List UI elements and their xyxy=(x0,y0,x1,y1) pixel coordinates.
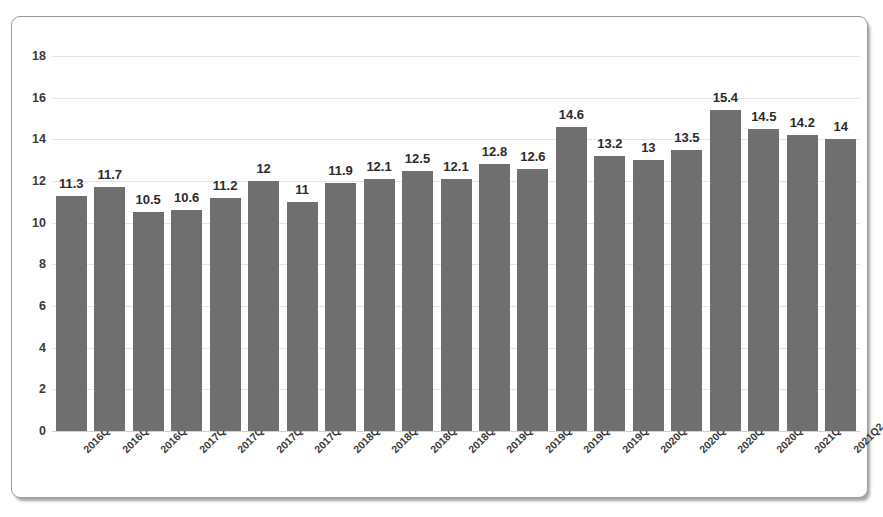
bar[interactable] xyxy=(748,129,779,431)
bar-value-label: 14.6 xyxy=(559,107,584,122)
bar[interactable] xyxy=(325,183,356,431)
bar-value-label: 12.1 xyxy=(443,159,468,174)
x-axis-tick-label: 2017Q4 xyxy=(312,447,320,455)
bar[interactable] xyxy=(171,210,202,431)
bar-value-label: 13.2 xyxy=(597,136,622,151)
bar-value-label: 12.5 xyxy=(405,151,430,166)
bar[interactable] xyxy=(517,169,548,432)
x-axis-tick-label: 2019Q1 xyxy=(504,447,512,455)
bar-value-label: 15.4 xyxy=(713,90,738,105)
bar-value-label: 11.2 xyxy=(213,178,238,193)
x-axis-tick-label: 2021Q2 xyxy=(851,447,859,455)
bar[interactable] xyxy=(556,127,587,431)
bar[interactable] xyxy=(94,187,125,431)
x-axis-tick-label: 2018Q2 xyxy=(389,447,397,455)
bar-value-label: 12 xyxy=(256,161,270,176)
bar[interactable] xyxy=(479,164,510,431)
bar[interactable] xyxy=(787,135,818,431)
plot-area: 02468101214161811.32016Q211.72016Q310.52… xyxy=(12,17,869,499)
bar-value-label: 12.1 xyxy=(366,159,391,174)
bar-value-label: 13.5 xyxy=(674,130,699,145)
bar-value-label: 12.8 xyxy=(482,144,507,159)
x-axis-tick-label: 2020Q4 xyxy=(774,447,782,455)
bar-value-label: 10.6 xyxy=(174,190,199,205)
x-axis-tick-label: 2016Q3 xyxy=(119,447,127,455)
x-axis-tick-label: 2019Q3 xyxy=(581,447,589,455)
bar[interactable] xyxy=(56,196,87,431)
y-axis-tick-label: 14 xyxy=(12,132,46,146)
x-axis-tick-label: 2019Q2 xyxy=(543,447,551,455)
y-axis-tick-label: 10 xyxy=(12,216,46,230)
x-axis-tick-label: 2017Q3 xyxy=(273,447,281,455)
y-axis-tick-label: 4 xyxy=(12,341,46,355)
x-axis-tick-label: 2019Q4 xyxy=(620,447,628,455)
y-axis-tick-label: 18 xyxy=(12,49,46,63)
y-axis-tick-label: 0 xyxy=(12,424,46,438)
x-axis-tick-label: 2017Q2 xyxy=(235,447,243,455)
bar-value-label: 11 xyxy=(295,182,309,197)
x-axis-tick-label: 2020Q3 xyxy=(735,447,743,455)
bar-value-label: 11.7 xyxy=(97,167,122,182)
bar[interactable] xyxy=(633,160,664,431)
bar[interactable] xyxy=(825,139,856,431)
bar-value-label: 14.5 xyxy=(751,109,776,124)
x-axis-tick-label: 2020Q2 xyxy=(697,447,705,455)
bar-value-label: 11.3 xyxy=(59,176,84,191)
bar[interactable] xyxy=(710,110,741,431)
bar-value-label: 14 xyxy=(834,119,848,134)
bar-value-label: 12.6 xyxy=(520,149,545,164)
x-axis-tick-label: 2021Q1 xyxy=(812,447,820,455)
x-axis-tick-label: 2017Q1 xyxy=(196,447,204,455)
gridline xyxy=(52,98,860,99)
x-axis-tick-label: 2018Q4 xyxy=(466,447,474,455)
bar[interactable] xyxy=(671,150,702,431)
bar-value-label: 10.5 xyxy=(136,192,161,207)
x-axis-tick-label: 2018Q3 xyxy=(427,447,435,455)
bar-value-label: 13 xyxy=(641,140,655,155)
y-axis-tick-label: 2 xyxy=(12,382,46,396)
bar[interactable] xyxy=(441,179,472,431)
bar[interactable] xyxy=(133,212,164,431)
y-axis-tick-label: 16 xyxy=(12,91,46,105)
bar[interactable] xyxy=(402,171,433,431)
x-axis-tick-label: 2020Q1 xyxy=(658,447,666,455)
y-axis-tick-label: 6 xyxy=(12,299,46,313)
gridline xyxy=(52,56,860,57)
bar[interactable] xyxy=(287,202,318,431)
x-axis-tick-label: 2018Q1 xyxy=(350,447,358,455)
bar[interactable] xyxy=(248,181,279,431)
bar-value-label: 14.2 xyxy=(790,115,815,130)
bar[interactable] xyxy=(364,179,395,431)
x-axis-tick-label: 2016Q4 xyxy=(158,447,166,455)
bar[interactable] xyxy=(210,198,241,431)
chart-frame: 02468101214161811.32016Q211.72016Q310.52… xyxy=(11,16,868,498)
y-axis-tick-label: 12 xyxy=(12,174,46,188)
y-axis-tick-label: 8 xyxy=(12,257,46,271)
bar[interactable] xyxy=(594,156,625,431)
bar-value-label: 11.9 xyxy=(328,163,353,178)
x-axis-tick-label: 2016Q2 xyxy=(81,447,89,455)
